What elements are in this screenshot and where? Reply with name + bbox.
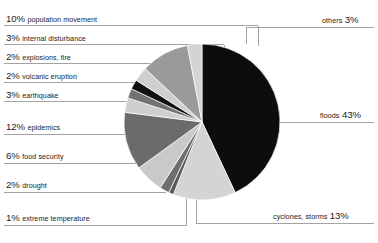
callout-percent: 2% bbox=[6, 51, 20, 62]
callout-cyclones-storms: cyclones, storms13% bbox=[273, 211, 349, 221]
callout-percent: 2% bbox=[6, 70, 20, 81]
callout-name: population movement bbox=[27, 15, 97, 24]
callout-name: drought bbox=[22, 181, 47, 190]
callout-percent: 3% bbox=[6, 32, 20, 43]
callout-name: food security bbox=[22, 152, 63, 161]
callout-drought: 2%drought bbox=[6, 180, 47, 190]
callout-name: others bbox=[322, 16, 342, 25]
callout-percent: 10% bbox=[6, 13, 25, 24]
callout-food-security: 6%food security bbox=[6, 151, 64, 161]
callout-percent: 2% bbox=[6, 179, 20, 190]
callout-floods: floods43% bbox=[320, 110, 361, 120]
callout-percent: 43% bbox=[342, 109, 361, 120]
callout-name: earthquake bbox=[22, 91, 58, 100]
callout-name: extreme temperature bbox=[22, 214, 90, 223]
callout-internal-disturbance: 3%internal disturbance bbox=[6, 33, 86, 43]
callout-percent: 3% bbox=[345, 14, 359, 25]
callout-percent: 1% bbox=[6, 212, 20, 223]
callout-name: epidemics bbox=[27, 123, 60, 132]
chart-canvas: 10%population movement 3%internal distur… bbox=[0, 0, 378, 243]
callout-others: others3% bbox=[322, 15, 358, 25]
callout-percent: 3% bbox=[6, 89, 20, 100]
callout-percent: 6% bbox=[6, 150, 20, 161]
callout-name: volcanic eruption bbox=[22, 72, 77, 81]
callout-earthquake: 3%earthquake bbox=[6, 90, 59, 100]
callout-name: floods bbox=[320, 111, 339, 120]
callout-explosions-fire: 2%explosions, fire bbox=[6, 52, 71, 62]
callout-volcanic-eruption: 2%volcanic eruption bbox=[6, 71, 77, 81]
callout-epidemics: 12%epidemics bbox=[6, 122, 60, 132]
pie-slice-group bbox=[124, 44, 280, 200]
callout-percent: 13% bbox=[330, 210, 349, 221]
callout-name: cyclones, storms bbox=[273, 212, 327, 221]
callout-population-movement: 10%population movement bbox=[6, 14, 97, 24]
callout-name: explosions, fire bbox=[22, 53, 71, 62]
callout-percent: 12% bbox=[6, 121, 25, 132]
callout-extreme-temperature: 1%extreme temperature bbox=[6, 213, 90, 223]
callout-name: internal disturbance bbox=[22, 34, 86, 43]
